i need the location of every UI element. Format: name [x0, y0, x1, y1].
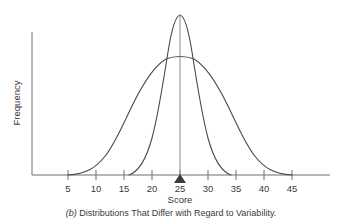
- x-tick-label-35: 35: [231, 183, 242, 194]
- x-tick-label-10: 10: [91, 183, 102, 194]
- distribution-chart: 5 10 15 20 25 30 35 40 45 Score Frequenc…: [0, 0, 342, 221]
- caption-label: (b): [66, 208, 77, 218]
- x-tick-label-45: 45: [287, 183, 298, 194]
- x-axis-title: Score: [168, 194, 193, 205]
- figure-container: 5 10 15 20 25 30 35 40 45 Score Frequenc…: [0, 0, 342, 221]
- x-tick-label-30: 30: [203, 183, 214, 194]
- x-tick-label-40: 40: [259, 183, 270, 194]
- figure-caption: (b) Distributions That Differ with Regar…: [0, 208, 342, 218]
- x-tick-label-20: 20: [147, 183, 158, 194]
- y-axis-title: Frequency: [11, 80, 22, 125]
- x-tick-label-25: 25: [175, 183, 186, 194]
- x-tick-label-15: 15: [119, 183, 130, 194]
- caption-body: Distributions That Differ with Regard to…: [79, 208, 276, 218]
- x-tick-label-5: 5: [65, 183, 70, 194]
